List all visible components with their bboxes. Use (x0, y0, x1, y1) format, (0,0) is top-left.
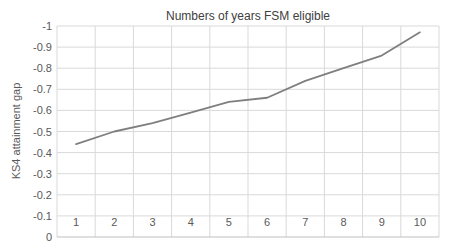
y-tick-label: -0.8 (33, 62, 52, 74)
plot-area: -1-0.9-0.8-0.7-0.6-0.5-0.4-0.3-0.2-0.101… (0, 0, 456, 251)
x-tick-label: 3 (149, 216, 155, 228)
y-tick-label: -0.2 (33, 189, 52, 201)
y-tick-label: -0.7 (33, 83, 52, 95)
x-tick-label: 4 (188, 216, 194, 228)
y-tick-label: -1 (42, 20, 52, 32)
y-tick-label: -0.1 (33, 210, 52, 222)
x-tick-label: 6 (264, 216, 270, 228)
x-tick-label: 8 (340, 216, 346, 228)
x-tick-label: 5 (226, 216, 232, 228)
fsm-years-attainment-gap-chart: Numbers of years FSM eligible KS4 attain… (0, 0, 456, 251)
y-tick-label: -0.6 (33, 104, 52, 116)
y-tick-label: -0.5 (33, 126, 52, 138)
x-tick-label: 10 (414, 216, 426, 228)
x-tick-label: 1 (73, 216, 79, 228)
y-tick-label: 0 (46, 231, 52, 243)
x-tick-label: 9 (379, 216, 385, 228)
y-tick-label: -0.3 (33, 168, 52, 180)
x-tick-label: 7 (302, 216, 308, 228)
y-tick-label: -0.4 (33, 147, 52, 159)
x-tick-label: 2 (111, 216, 117, 228)
y-tick-label: -0.9 (33, 41, 52, 53)
